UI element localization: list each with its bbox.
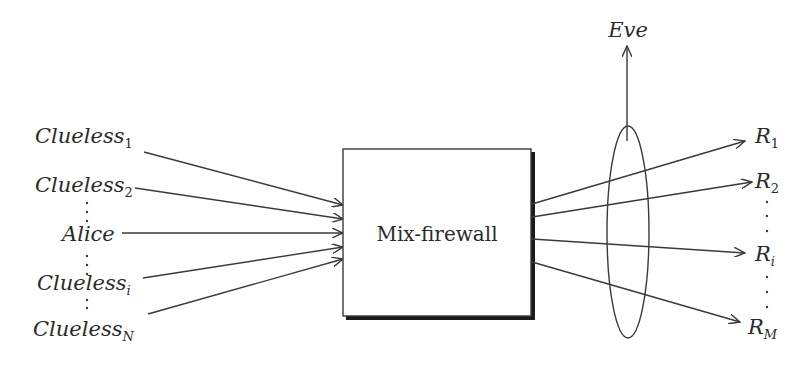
mix-firewall-diagram: Clueless1 Clueless2 Alice Cluelessi Clue…	[0, 0, 812, 366]
arrow-clueless-1-to-mix	[144, 152, 343, 205]
arrow-clueless-2-to-mix	[135, 188, 343, 219]
eavesdrop-ellipse	[607, 126, 649, 338]
eve-label: Eve	[607, 18, 648, 42]
sender-label-clueless-n: CluelessN	[33, 317, 134, 344]
mix-firewall-box: Mix-firewall	[343, 149, 535, 320]
arrow-mix-to-r1	[532, 141, 745, 204]
sender-label-clueless-i: Cluelessi	[37, 271, 131, 298]
arrow-clueless-n-to-mix	[148, 259, 343, 314]
receiver-label-rm: RM	[747, 315, 778, 342]
sender-label-alice: Alice	[60, 222, 115, 246]
receiver-label-ri: Ri	[754, 242, 775, 269]
receiver-label-r2: R2	[754, 169, 779, 196]
sender-label-clueless-1: Clueless1	[35, 124, 133, 151]
receiver-label-r1: R1	[754, 124, 779, 151]
arrow-mix-to-r2	[532, 182, 752, 217]
arrow-mix-to-rm	[532, 262, 740, 322]
sender-label-clueless-2: Clueless2	[35, 173, 133, 200]
arrow-clueless-i-to-mix	[143, 247, 343, 278]
arrow-mix-to-ri	[532, 239, 745, 253]
mix-firewall-label: Mix-firewall	[376, 222, 497, 246]
